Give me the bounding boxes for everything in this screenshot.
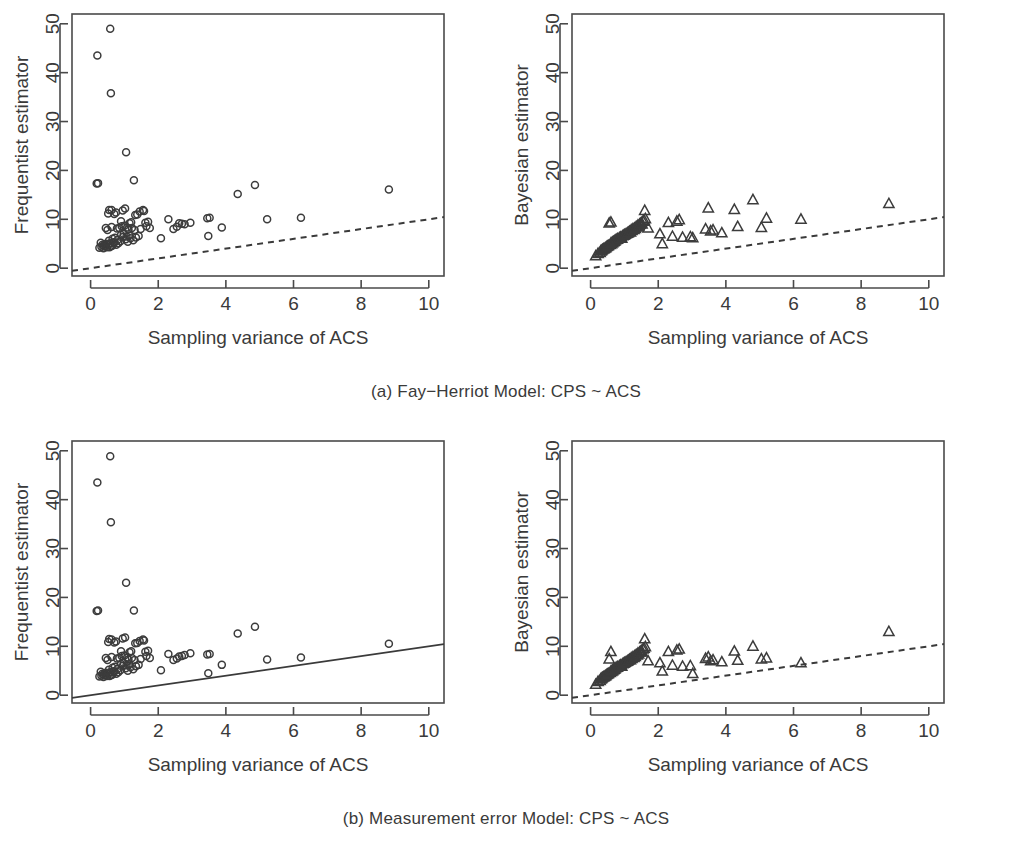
x-axis-tick-label: 4 [221, 293, 232, 314]
x-axis-tick-label: 4 [221, 720, 232, 741]
x-axis-tick-label: 8 [856, 720, 867, 741]
data-point-triangle [685, 660, 695, 669]
x-axis-tick-label: 10 [918, 720, 939, 741]
y-axis-tick-label: 20 [543, 587, 564, 608]
y-axis-tick-label: 40 [43, 62, 64, 83]
data-point-triangle [640, 205, 650, 214]
y-axis-tick-label: 20 [43, 587, 64, 608]
y-axis-tick-label: 0 [43, 263, 64, 274]
data-point-circle [218, 661, 225, 668]
y-axis-title: Bayesian estimator [511, 491, 532, 653]
x-axis-tick-label: 10 [418, 293, 439, 314]
x-axis-tick-label: 4 [721, 720, 732, 741]
y-axis-title: Frequentist estimator [11, 482, 32, 661]
x-axis-tick-label: 8 [356, 293, 367, 314]
y-axis-tick-label: 30 [543, 111, 564, 132]
y-axis-title: Frequentist estimator [11, 55, 32, 234]
x-axis-tick-label: 6 [288, 720, 299, 741]
data-point-triangle [643, 656, 653, 665]
y-axis-tick-label: 40 [543, 62, 564, 83]
y-axis-title: Bayesian estimator [511, 64, 532, 226]
panel-row-b: 010203040500246810Sampling variance of A… [0, 427, 1012, 812]
y-axis-tick-label: 10 [43, 636, 64, 657]
scatter-plot-a-left: 010203040500246810Sampling variance of A… [6, 0, 506, 385]
x-axis-title: Sampling variance of ACS [648, 327, 869, 348]
data-point-circle [94, 52, 101, 59]
data-point-triangle [884, 626, 894, 635]
x-axis-title: Sampling variance of ACS [148, 327, 369, 348]
panel-row-a: 010203040500246810Sampling variance of A… [0, 0, 1012, 385]
scatter-plot-b-right: 010203040500246810Sampling variance of A… [506, 427, 1006, 812]
panel-a-right: 010203040500246810Sampling variance of A… [506, 0, 1006, 385]
y-axis-tick-label: 0 [543, 263, 564, 274]
x-axis-tick-label: 6 [788, 293, 799, 314]
x-axis-title: Sampling variance of ACS [648, 754, 869, 775]
data-point-triangle [717, 657, 727, 666]
panel-b-right: 010203040500246810Sampling variance of A… [506, 427, 1006, 812]
y-axis-tick-label: 10 [43, 209, 64, 230]
subfigure-a: 010203040500246810Sampling variance of A… [0, 0, 1012, 427]
data-point-triangle [703, 203, 713, 212]
plot-content [572, 194, 944, 271]
data-point-triangle [796, 214, 806, 223]
data-point-circle [157, 667, 164, 674]
data-point-circle [251, 623, 258, 630]
x-axis-tick-label: 2 [153, 293, 164, 314]
y-axis-tick-label: 0 [543, 690, 564, 701]
data-point-triangle [733, 655, 743, 664]
plot-content [72, 453, 444, 698]
figure-root: 010203040500246810Sampling variance of A… [0, 0, 1012, 854]
reference-line-dashed [572, 644, 944, 698]
x-axis-tick-label: 0 [85, 720, 96, 741]
data-point-triangle [655, 658, 665, 667]
data-point-circle [297, 214, 304, 221]
data-point-triangle [667, 231, 677, 240]
x-axis-tick-label: 2 [653, 720, 664, 741]
data-point-circle [264, 656, 271, 663]
data-point-circle [107, 519, 114, 526]
data-point-circle [107, 90, 114, 97]
data-point-circle [297, 654, 304, 661]
y-axis-tick-label: 50 [43, 440, 64, 461]
x-axis-tick-label: 4 [721, 293, 732, 314]
scatter-plot-a-right: 010203040500246810Sampling variance of A… [506, 0, 1006, 385]
data-point-circle [107, 453, 114, 460]
data-point-triangle [761, 213, 771, 222]
x-axis-tick-label: 10 [918, 293, 939, 314]
data-point-circle [157, 235, 164, 242]
data-point-circle [251, 182, 258, 189]
data-point-circle [107, 25, 114, 32]
y-axis-tick-label: 50 [543, 440, 564, 461]
data-point-triangle [884, 198, 894, 207]
data-point-circle [234, 630, 241, 637]
data-point-triangle [733, 221, 743, 230]
y-axis-tick-label: 30 [43, 538, 64, 559]
y-axis-tick-label: 30 [43, 111, 64, 132]
subfigure-b: 010203040500246810Sampling variance of A… [0, 427, 1012, 854]
data-point-circle [205, 670, 212, 677]
x-axis-tick-label: 6 [788, 720, 799, 741]
data-point-circle [130, 177, 137, 184]
data-point-circle [205, 232, 212, 239]
data-point-circle [94, 479, 101, 486]
data-point-triangle [748, 194, 758, 203]
data-point-circle [123, 579, 130, 586]
x-axis-tick-label: 6 [288, 293, 299, 314]
subfigure-b-caption: (b) Measurement error Model: CPS ~ ACS [0, 809, 1012, 829]
plot-content [572, 626, 944, 698]
data-point-triangle [729, 204, 739, 213]
plot-content [72, 25, 444, 271]
data-point-triangle [657, 238, 667, 247]
x-axis-tick-label: 0 [85, 293, 96, 314]
panel-a-left: 010203040500246810Sampling variance of A… [6, 0, 506, 385]
data-point-circle [123, 149, 130, 156]
data-point-triangle [717, 228, 727, 237]
y-axis-tick-label: 20 [543, 160, 564, 181]
x-axis-tick-label: 2 [153, 720, 164, 741]
y-axis-tick-label: 30 [543, 538, 564, 559]
data-point-triangle [729, 646, 739, 655]
data-point-circle [130, 607, 137, 614]
data-point-circle [218, 224, 225, 231]
data-point-triangle [655, 229, 665, 238]
data-point-circle [385, 186, 392, 193]
